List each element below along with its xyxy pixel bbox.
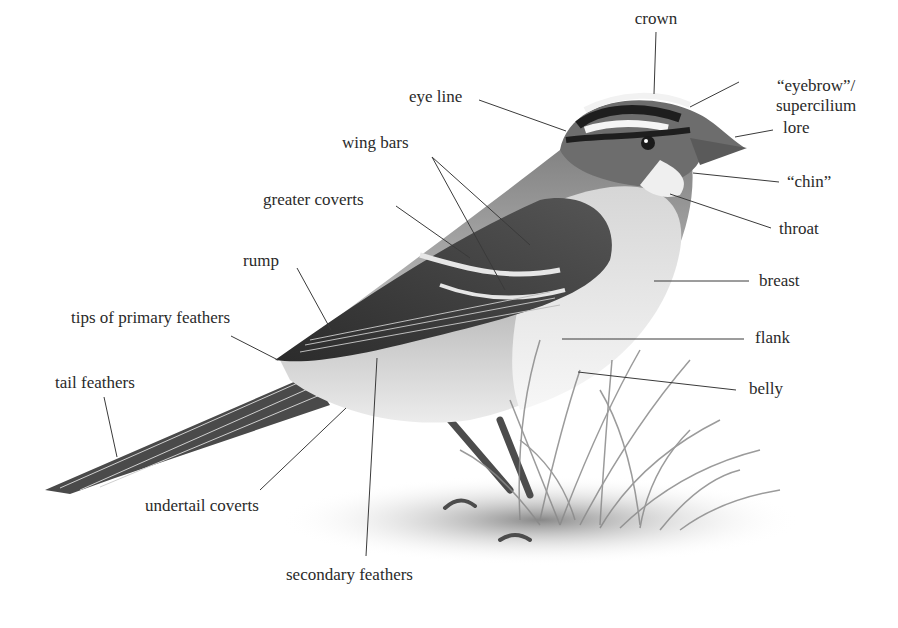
label-undertail-coverts: undertail coverts (145, 496, 259, 516)
label-text: throat (779, 219, 819, 239)
tips-of-primary-feathers-leader-line (231, 336, 278, 360)
label-wing-bars: wing bars (342, 133, 409, 153)
label-text: eye line (409, 87, 462, 107)
label-text: crown (635, 9, 677, 29)
label-text: tail feathers (55, 373, 135, 393)
label-text: belly (749, 379, 783, 399)
label-tips-of-primary-feathers: tips of primary feathers (71, 308, 230, 328)
label-eyebrow: “eyebrow”/supercilium (776, 76, 856, 116)
label-text: secondary feathers (286, 565, 413, 585)
lore-leader-line (735, 130, 773, 137)
label-text: greater coverts (263, 190, 364, 210)
belly-leader-line (578, 372, 736, 390)
label-text: “eyebrow”/ (776, 76, 856, 96)
rump-leader-line (297, 268, 331, 330)
label-breast: breast (759, 271, 800, 291)
label-text: tips of primary feathers (71, 308, 230, 328)
label-text: “chin” (787, 172, 831, 192)
label-text: wing bars (342, 133, 409, 153)
label-greater-coverts: greater coverts (263, 190, 364, 210)
label-rump: rump (243, 251, 279, 271)
label-secondary-feathers: secondary feathers (286, 565, 413, 585)
eyebrow-leader-line (690, 82, 739, 107)
label-text: lore (783, 118, 809, 138)
eye-line-leader-line (479, 100, 566, 131)
label-chin: “chin” (787, 172, 831, 192)
label-text: breast (759, 271, 800, 291)
label-belly: belly (749, 379, 783, 399)
eye (641, 136, 655, 150)
label-text: flank (755, 328, 790, 348)
label-flank: flank (755, 328, 790, 348)
bird-anatomy-diagram: crown“eyebrow”/superciliumeye linelorewi… (0, 0, 898, 628)
crown-leader-line (654, 32, 656, 94)
label-eye-line: eye line (409, 87, 462, 107)
label-text: undertail coverts (145, 496, 259, 516)
label-tail-feathers: tail feathers (55, 373, 135, 393)
label-text: rump (243, 251, 279, 271)
label-throat: throat (779, 219, 819, 239)
tail-feathers-leader-line (104, 397, 117, 457)
chin-leader-line (693, 173, 779, 182)
label-text-line2: supercilium (776, 96, 856, 116)
label-crown: crown (635, 9, 677, 29)
label-lore: lore (783, 118, 809, 138)
